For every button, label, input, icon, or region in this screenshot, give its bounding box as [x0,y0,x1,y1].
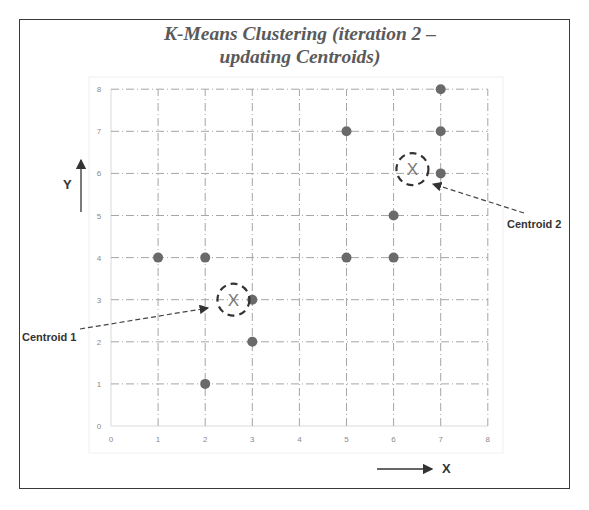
y-tick-label: 0 [97,422,102,431]
x-tick-label: 7 [438,435,443,444]
centroid-x-icon: X [407,160,418,179]
data-point [342,126,352,136]
data-point [153,253,163,263]
x-tick-label: 6 [391,435,396,444]
scatter-plot: 012345678012345678 XX [0,0,589,510]
x-tick-label: 1 [156,435,161,444]
y-tick-label: 5 [97,212,102,221]
data-point [389,253,399,263]
x-tick-label: 0 [109,435,114,444]
data-point [436,126,446,136]
x-axis-label: X [442,461,451,476]
y-tick-label: 2 [97,338,102,347]
centroid-1-label: Centroid 1 [22,331,76,343]
x-tick-label: 4 [297,435,302,444]
centroid-x-icon: X [228,291,239,310]
centroid-2-label: Centroid 2 [507,218,561,230]
data-point [247,337,257,347]
x-tick-label: 3 [250,435,255,444]
y-tick-label: 7 [97,127,102,136]
data-point [200,379,210,389]
y-tick-label: 3 [97,296,102,305]
y-tick-label: 4 [97,254,102,263]
data-point [200,253,210,263]
y-tick-label: 8 [97,85,102,94]
y-tick-label: 1 [97,380,102,389]
y-axis-label: Y [63,177,72,192]
data-point [436,84,446,94]
data-point [436,168,446,178]
data-point [342,253,352,263]
x-tick-label: 8 [486,435,491,444]
data-point [389,211,399,221]
x-tick-label: 5 [344,435,349,444]
x-tick-label: 2 [203,435,208,444]
y-tick-label: 6 [97,169,102,178]
